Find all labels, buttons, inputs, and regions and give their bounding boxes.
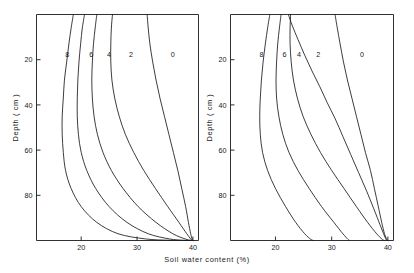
y-tick-label: 80 bbox=[219, 191, 227, 200]
curve-label-8: 8 bbox=[259, 50, 263, 59]
curve-label-4: 4 bbox=[297, 50, 301, 59]
y-tick-label: 60 bbox=[25, 146, 33, 155]
right-panel: 20304020406080Depth ( cm )86420 bbox=[205, 15, 394, 252]
curve-label-6: 6 bbox=[282, 50, 286, 59]
y-tick-label: 80 bbox=[25, 191, 33, 200]
y-axis-label: Depth ( cm ) bbox=[205, 94, 214, 142]
y-axis-label: Depth ( cm ) bbox=[11, 94, 20, 142]
curve-6 bbox=[77, 15, 193, 241]
curve-label-0: 0 bbox=[360, 50, 364, 59]
curve-8 bbox=[260, 15, 314, 241]
plot-frame bbox=[231, 15, 394, 241]
soil-water-content-figure: 20304020406080Depth ( cm )86420203040204… bbox=[0, 0, 414, 273]
y-tick-label: 40 bbox=[25, 101, 33, 110]
curve-0 bbox=[147, 15, 193, 241]
curve-4 bbox=[92, 15, 193, 241]
curve-4 bbox=[290, 15, 385, 241]
y-tick-label: 40 bbox=[219, 101, 227, 110]
curve-0 bbox=[335, 15, 388, 241]
y-tick-label: 60 bbox=[219, 146, 227, 155]
curve-8 bbox=[62, 15, 193, 241]
x-tick-label: 30 bbox=[133, 243, 141, 252]
x-tick-label: 20 bbox=[271, 243, 279, 252]
y-tick-label: 20 bbox=[25, 55, 33, 64]
x-tick-label: 30 bbox=[328, 243, 336, 252]
curve-2 bbox=[288, 15, 386, 241]
x-tick-label: 40 bbox=[189, 243, 197, 252]
plot-frame bbox=[37, 15, 199, 241]
curve-2 bbox=[111, 15, 193, 241]
curve-label-2: 2 bbox=[129, 50, 133, 59]
y-tick-label: 20 bbox=[219, 55, 227, 64]
curve-label-8: 8 bbox=[65, 50, 69, 59]
x-axis-label: Soil water content (%) bbox=[164, 255, 250, 264]
curve-label-0: 0 bbox=[171, 50, 175, 59]
x-tick-label: 40 bbox=[384, 243, 392, 252]
x-tick-label: 20 bbox=[77, 243, 85, 252]
curve-label-2: 2 bbox=[316, 50, 320, 59]
left-panel: 20304020406080Depth ( cm )86420 bbox=[11, 15, 199, 252]
